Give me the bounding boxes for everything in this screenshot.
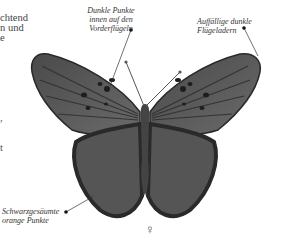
label-dark-spots: Dunkle Punkte innen auf den Vorderflügel…: [86, 6, 136, 33]
label-line: innen auf den: [86, 15, 136, 24]
label-dark-veins: Auffällige dunkle Flügeladern: [197, 17, 277, 35]
female-symbol-icon: ♀: [145, 222, 155, 236]
butterfly-illustration: [0, 0, 289, 236]
label-line: Dunkle Punkte: [86, 6, 136, 15]
label-line: Vorderflügeln: [86, 24, 136, 33]
left-hindwing: [74, 124, 142, 216]
label-bordered-spots: Schwarzgesäumte orange Punkte: [2, 207, 64, 225]
label-line: orange Punkte: [2, 216, 64, 225]
label-line: Schwarzgesäumte: [2, 207, 64, 216]
body: [141, 104, 150, 196]
label-line: Auffällige dunkle: [197, 17, 277, 26]
label-line: Flügeladern: [197, 26, 277, 35]
right-hindwing: [148, 124, 216, 216]
